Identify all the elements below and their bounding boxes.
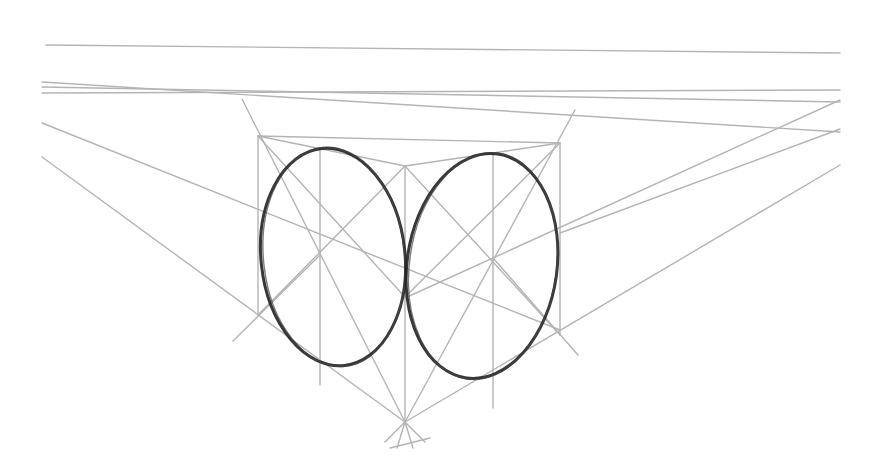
perspective-guide-line [42,87,840,102]
horizon-line [46,45,840,53]
perspective-guide-line [258,136,405,297]
perspective-drawing [0,0,875,469]
perspective-guide-line [258,136,405,166]
perspective-guide-line [560,129,840,233]
sketched-ellipses [250,140,572,389]
perspective-guide-line [405,166,560,335]
perspective-guide-line [405,143,560,297]
perspective-guide-line [493,258,578,355]
perspective-guide-line [42,90,840,93]
perspective-guide-line [405,100,840,298]
perspective-guide-line [42,157,405,422]
right-face-ellipse-stroke [394,143,571,389]
left-face-ellipse-stroke [252,140,415,374]
construction-guide-lines [42,45,840,448]
left-face-ellipse [250,141,416,373]
perspective-guide-line [258,166,405,315]
perspective-guide-line [258,136,560,143]
